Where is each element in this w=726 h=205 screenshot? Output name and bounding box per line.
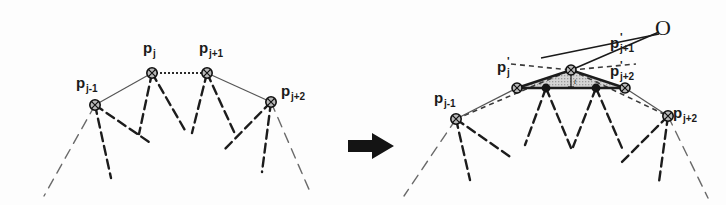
node-inner-right[interactable] [592, 84, 601, 93]
label-base: p [199, 39, 208, 56]
label-p-prime-j: p ' j [497, 55, 510, 78]
right-panel-group: O t p j-1 p ' j p ' j+1 p ' j+2 [404, 15, 708, 198]
label-base: p [673, 104, 682, 121]
label-p-prime-j-plus-1: p ' j+1 [610, 31, 635, 54]
label-p-prime-j-plus-2: p ' j+2 [610, 59, 635, 82]
label-subscript: j [506, 67, 510, 78]
leaf-edge [95, 105, 152, 144]
leaf-edge [525, 88, 546, 145]
edge-dashed-short-upper-left [511, 64, 571, 70]
leaf-edge [573, 88, 596, 147]
node-p-prime-j-plus-1[interactable] [566, 65, 576, 75]
edge-dashed-short-upper-right [571, 64, 636, 70]
leaf-edge [44, 105, 95, 196]
label-p-j-plus-2: p j+2 [281, 82, 306, 102]
node-p-prime-j-plus-2[interactable] [620, 83, 630, 93]
node-p-j-minus-1[interactable] [90, 100, 100, 110]
label-base: p [610, 34, 619, 51]
leaf-edge [207, 73, 235, 134]
figure-svg: p j-1 p j p j+1 p j+2 [0, 0, 726, 205]
label-p-j-plus-1: p j+1 [199, 39, 224, 59]
subtree-pjp2 [224, 102, 311, 194]
label-prime: ' [620, 59, 623, 71]
center-point-O-label: O [655, 15, 671, 40]
edge-pjp1-pjp2 [207, 73, 271, 102]
subtree-right-pjp2 [622, 116, 708, 198]
leaf-edge [596, 88, 622, 148]
label-base: p [497, 58, 506, 75]
figure-canvas: p j-1 p j p j+1 p j+2 [0, 0, 726, 205]
leaf-edge [271, 102, 311, 194]
node-inner-left[interactable] [542, 84, 551, 93]
label-right-p-j-plus-2: p j+2 [673, 104, 698, 124]
node-right-p-j-plus-2[interactable] [663, 111, 673, 121]
leaf-edge [668, 116, 708, 198]
label-p-j: p j [143, 39, 156, 59]
subtree-right-inner-right [573, 88, 622, 148]
label-subscript: j+2 [290, 91, 306, 102]
label-subscript: j+1 [619, 43, 635, 54]
subtree-right-inner-left [525, 88, 571, 148]
label-subscript: j [152, 48, 156, 59]
edge-pjm1-pj [95, 73, 152, 105]
subtree-pj [139, 73, 186, 134]
left-panel-group: p j-1 p j p j+1 p j+2 [44, 39, 311, 196]
label-subscript: j+2 [682, 113, 698, 124]
leaf-edge [622, 116, 668, 162]
leaf-edge [659, 116, 668, 182]
label-base: p [76, 74, 85, 91]
leaf-edge [192, 73, 207, 133]
node-p-j[interactable] [147, 68, 157, 78]
transformation-arrow [348, 133, 394, 159]
label-prime: ' [507, 55, 510, 67]
label-subscript: j-1 [443, 98, 456, 109]
node-p-j-plus-1[interactable] [202, 68, 212, 78]
edge-pjm1-pprimej [456, 88, 517, 119]
leaf-edge [262, 102, 271, 172]
leaf-edge [152, 73, 186, 132]
leaf-edge [95, 105, 111, 178]
leaf-edge [404, 119, 456, 196]
leaf-edge [546, 88, 571, 148]
edge-pprimejp2-pjp2 [625, 88, 668, 116]
leaf-edge [139, 73, 152, 134]
subtree-pjm1 [44, 105, 152, 196]
label-base: p [610, 62, 619, 79]
node-p-prime-j[interactable] [512, 83, 522, 93]
leader-O-to-dashed-upper [541, 34, 659, 58]
node-right-p-j-minus-1[interactable] [451, 114, 461, 124]
subtree-right-pjm1 [404, 119, 512, 196]
label-base: p [143, 39, 152, 56]
label-base: p [281, 82, 290, 99]
label-subscript: j+1 [208, 48, 224, 59]
label-base: p [434, 89, 443, 106]
label-subscript: j-1 [85, 83, 98, 94]
label-p-j-minus-1: p j-1 [76, 74, 98, 94]
node-p-j-plus-2[interactable] [266, 97, 276, 107]
label-prime: ' [620, 31, 623, 43]
label-subscript: j+2 [619, 71, 635, 82]
label-right-p-j-minus-1: p j-1 [434, 89, 456, 109]
